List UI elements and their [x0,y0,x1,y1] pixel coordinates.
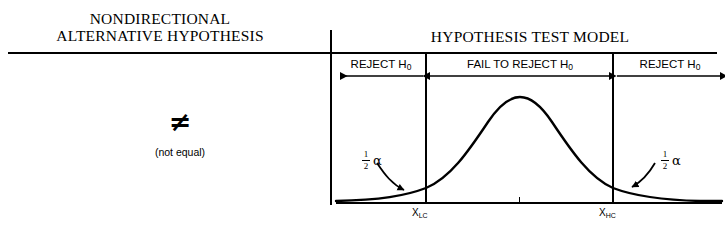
hypothesis-test-figure: NONDIRECTIONAL ALTERNATIVE HYPOTHESIS ≠ … [0,0,725,231]
alpha-symbol: α [373,153,382,168]
alpha-symbol: α [672,153,681,168]
region-arrows [0,0,725,231]
one-half-fraction: 1 2 [661,150,669,171]
pointer-arrow-right-tail [632,163,655,187]
tail-label-left: 1 2 α [362,150,382,171]
fraction-numerator: 1 [662,150,669,159]
fraction-numerator: 1 [363,150,370,159]
tick-label-text: X [412,207,419,218]
axis-tick-label-lower-critical: XLC [412,207,428,219]
tick-label-text: X [599,207,606,218]
tick-label-subscript: HC [606,212,616,219]
tail-label-right: 1 2 α [661,150,681,171]
fraction-denominator: 2 [363,162,370,171]
fraction-denominator: 2 [662,162,669,171]
tick-label-subscript: LC [419,212,428,219]
axis-tick-label-upper-critical: XHC [599,207,616,219]
one-half-fraction: 1 2 [362,150,370,171]
